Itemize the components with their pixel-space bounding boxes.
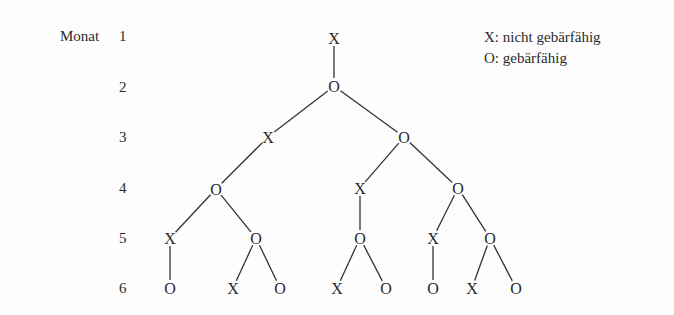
node-not-fertile: X [354, 180, 366, 197]
tree-edge [176, 195, 211, 232]
tree-edge [494, 245, 513, 281]
tree-nodes: XOXOOXOXOOXOOXOXOOXO [164, 30, 522, 297]
node-fertile: O [484, 230, 496, 247]
tree-edge [274, 91, 327, 132]
tree-edge [260, 245, 277, 281]
tree-edge [364, 245, 383, 281]
tree-edge [340, 245, 356, 280]
node-fertile: O [274, 280, 286, 297]
tree-edge [222, 143, 263, 184]
node-fertile: O [164, 280, 176, 297]
tree-edge [341, 91, 398, 133]
node-fertile: O [328, 78, 340, 95]
node-not-fertile: X [262, 129, 274, 146]
node-not-fertile: X [227, 280, 239, 297]
tree-edge [462, 195, 485, 232]
node-not-fertile: X [427, 230, 439, 247]
node-not-fertile: X [331, 280, 343, 297]
node-not-fertile: X [164, 230, 176, 247]
tree-edge [365, 143, 399, 182]
tree-edge [236, 245, 252, 280]
node-fertile: O [427, 280, 439, 297]
node-fertile: O [210, 181, 222, 198]
tree-edges [170, 46, 512, 281]
node-fertile: O [354, 230, 366, 247]
node-fertile: O [380, 280, 392, 297]
node-not-fertile: X [328, 30, 340, 47]
node-fertile: O [510, 280, 522, 297]
node-fertile: O [398, 129, 410, 146]
node-fertile: O [452, 180, 464, 197]
node-fertile: O [250, 230, 262, 247]
node-not-fertile: X [466, 280, 478, 297]
tree-edge [437, 195, 455, 231]
tree-edge [410, 143, 452, 183]
family-tree-diagram: XOXOOXOXOOXOOXOXOOXO [0, 0, 674, 315]
tree-edge [475, 246, 488, 281]
tree-edge [221, 195, 251, 232]
